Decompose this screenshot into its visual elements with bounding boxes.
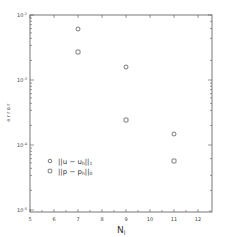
y-axis-ticks <box>30 15 212 210</box>
legend-square-icon <box>48 169 52 173</box>
svg-text:10-3: 10-3 <box>17 77 27 84</box>
data-point <box>76 50 80 54</box>
svg-text:5: 5 <box>28 216 31 222</box>
data-point <box>124 65 128 69</box>
series-p-points <box>76 50 176 163</box>
svg-text:10-4: 10-4 <box>17 142 28 149</box>
x-axis-title: Nl <box>117 225 126 236</box>
plot-frame <box>30 15 212 212</box>
data-point <box>172 132 176 136</box>
svg-text:11: 11 <box>171 216 177 222</box>
legend-circle-icon <box>48 159 52 163</box>
y-axis-title: error <box>5 102 11 122</box>
data-point <box>172 159 176 163</box>
svg-text:9: 9 <box>124 216 127 222</box>
legend: ||u − uh||1 ||p − ph||0 <box>48 158 92 177</box>
series-u-points <box>76 27 176 136</box>
svg-text:12: 12 <box>195 216 201 222</box>
svg-text:10-2: 10-2 <box>17 12 27 19</box>
x-axis-ticks <box>30 15 210 212</box>
x-tick-labels: 5 6 7 8 9 10 11 12 <box>28 216 201 222</box>
svg-text:10: 10 <box>147 216 153 222</box>
svg-text:8: 8 <box>100 216 103 222</box>
data-point <box>76 27 80 31</box>
svg-text:7: 7 <box>76 216 79 222</box>
legend-label-p: ||p − ph||0 <box>58 168 93 177</box>
y-tick-labels: 10-2 10-3 10-4 10-5 <box>17 12 28 214</box>
chart-canvas: 10-2 10-3 10-4 10-5 5 6 7 8 9 10 11 12 N… <box>0 0 228 237</box>
svg-text:6: 6 <box>52 216 55 222</box>
data-point <box>124 118 128 122</box>
legend-label-u: ||u − uh||1 <box>58 158 92 167</box>
svg-text:10-5: 10-5 <box>17 207 27 214</box>
